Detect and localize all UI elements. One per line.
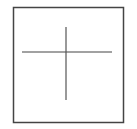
square-frame (14, 8, 124, 123)
diagram-canvas (0, 0, 137, 129)
